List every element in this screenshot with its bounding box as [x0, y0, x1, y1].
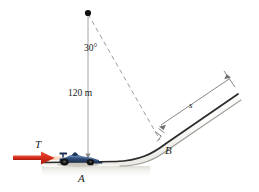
arc-length-dimension [159, 71, 235, 130]
physics-diagram-figure: 30° 120 m s A B T [0, 0, 259, 192]
driver-helmet [73, 152, 77, 156]
dimension-line [161, 79, 229, 125]
dimension-extension-tick [224, 71, 235, 87]
car-wing-strut [62, 154, 64, 158]
ground-top-edge [44, 94, 238, 163]
car-rear-hub [63, 160, 66, 162]
ground-shadow [42, 166, 150, 178]
diagram-canvas [0, 0, 259, 192]
angle-label: 30° [84, 44, 97, 54]
arc-length-label: s [189, 101, 193, 110]
car-front-wing [95, 162, 103, 164]
point-a-label: A [78, 173, 85, 184]
apex-point [85, 10, 91, 16]
height-label: 120 m [68, 89, 92, 99]
force-arrow-shaft [13, 156, 44, 160]
car-front-hub [89, 161, 92, 163]
point-b-label: B [165, 145, 172, 156]
force-t-label: T [35, 139, 41, 150]
race-car [57, 152, 103, 167]
dashed-angle-line [88, 14, 160, 140]
